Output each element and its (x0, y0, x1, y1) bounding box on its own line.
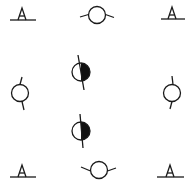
half-filled-circle-icon (72, 114, 90, 148)
symbol-diagram (0, 0, 195, 193)
half-filled-circle-icon (72, 55, 90, 90)
circle-horizontal-ticks-icon (80, 7, 114, 24)
triangle-line-icon (161, 7, 185, 19)
circle-vertical-ticks-icon (12, 77, 29, 110)
triangle-line-icon (157, 165, 184, 177)
circle-vertical-ticks-icon (164, 76, 181, 109)
triangle-line-icon (10, 8, 36, 20)
circle-horizontal-ticks-icon (81, 162, 116, 179)
triangle-line-icon (10, 165, 36, 177)
